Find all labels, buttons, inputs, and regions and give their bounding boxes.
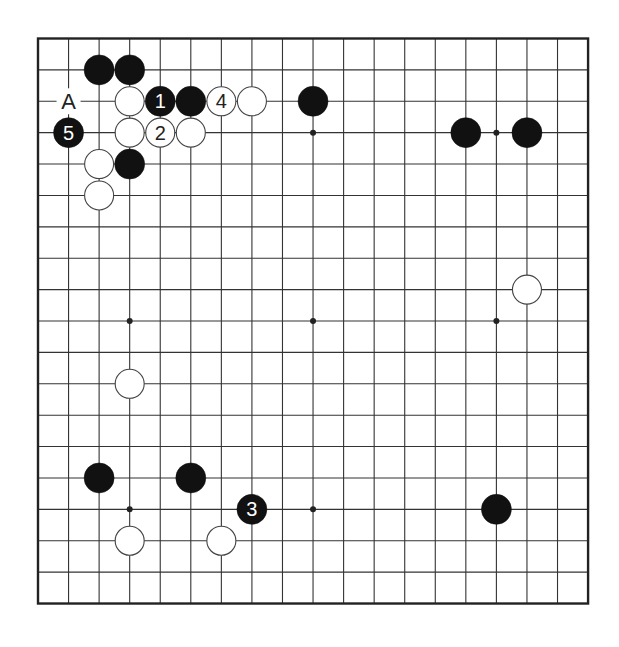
move-number: 1 [155,90,166,112]
white-stone [115,118,144,147]
black-stone [481,494,511,524]
white-stone [207,526,236,555]
star-point [127,506,133,512]
white-stone [176,118,205,147]
marker-label: A [61,89,76,114]
star-point [310,318,316,324]
black-stone [512,118,542,148]
white-stone [85,150,114,179]
star-point [493,318,499,324]
white-stone [115,526,144,555]
white-stone [115,369,144,398]
go-board[interactable]: A 14523 [0,0,619,647]
black-stone [115,149,145,179]
move-number: 5 [63,122,74,144]
stones: 14523 [54,55,542,555]
black-stone [84,55,114,85]
black-stone [451,118,481,148]
white-stone [115,87,144,116]
black-stone-move-3: 3 [237,494,267,524]
star-point [310,506,316,512]
white-stone [85,181,114,210]
star-point [127,318,133,324]
move-number: 4 [216,90,227,112]
star-point [493,130,499,136]
white-stone-move-4: 4 [207,87,236,116]
black-stone [84,463,114,493]
black-stone [176,86,206,116]
black-stone [115,55,145,85]
white-stone [512,275,541,304]
board-marker-a[interactable]: A [57,88,81,114]
move-number: 2 [155,122,166,144]
black-stone-move-1: 1 [145,86,175,116]
board-markers: A [57,88,81,114]
move-number: 3 [246,498,257,520]
black-stone-move-5: 5 [54,118,84,148]
star-point [310,130,316,136]
black-stone [176,463,206,493]
white-stone-move-2: 2 [146,118,175,147]
white-stone [237,87,266,116]
black-stone [298,86,328,116]
